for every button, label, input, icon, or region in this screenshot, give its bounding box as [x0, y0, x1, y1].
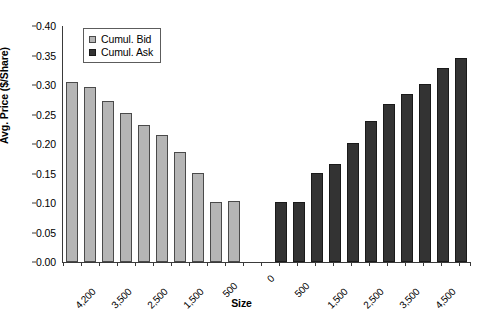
bar-cumul-ask [293, 202, 306, 262]
bar-cumul-ask [455, 58, 468, 262]
y-tick-label: 0.00 [36, 256, 63, 268]
x-tick-mark [225, 262, 226, 266]
bar-cumul-ask [383, 104, 396, 262]
x-tick-mark [470, 262, 471, 266]
x-tick-mark [423, 262, 424, 266]
bar-cumul-ask [329, 164, 342, 262]
y-tick-label: 0.30 [36, 79, 63, 91]
x-tick-mark [369, 262, 370, 266]
y-tick-mark [32, 262, 36, 263]
bar-cumul-bid [102, 101, 115, 262]
bar-cumul-bid [66, 82, 79, 262]
x-tick-mark [441, 262, 442, 266]
x-tick-mark [153, 262, 154, 266]
bar-cumul-bid [174, 152, 187, 262]
x-tick-label: 0 [264, 273, 276, 285]
bar-cumul-ask [401, 94, 414, 262]
x-tick-mark [189, 262, 190, 266]
x-tick-mark [315, 262, 316, 266]
y-tick-mark [32, 85, 36, 86]
bar-cumul-bid [138, 125, 151, 262]
x-tick-mark [351, 262, 352, 266]
x-tick-mark [261, 262, 262, 266]
x-tick-mark [63, 262, 64, 266]
legend-label-ask: Cumul. Ask [101, 47, 153, 58]
legend-swatch-icon-bid [89, 36, 96, 43]
y-axis-title: Avg. Price ($/Share) [0, 47, 10, 144]
x-tick-mark [405, 262, 406, 266]
y-tick-label: 0.35 [36, 50, 63, 62]
bar-cumul-ask [275, 202, 288, 262]
bar-chart: Avg. Price ($/Share) Size 0.000.050.100.… [0, 0, 483, 323]
legend-item-cumul-bid: Cumul. Bid [89, 33, 153, 45]
bar-cumul-ask [347, 143, 360, 262]
x-tick-mark [243, 262, 244, 266]
x-tick-mark [387, 262, 388, 266]
legend-item-cumul-ask: Cumul. Ask [89, 46, 153, 58]
bar-cumul-bid [120, 113, 133, 262]
bar-cumul-bid [156, 135, 169, 262]
x-tick-mark [117, 262, 118, 266]
legend-label-bid: Cumul. Bid [101, 34, 151, 45]
bar-cumul-bid [228, 201, 241, 262]
y-tick-label: 0.40 [36, 20, 63, 32]
bar-cumul-bid [192, 173, 205, 262]
x-tick-mark [459, 262, 460, 266]
bar-cumul-ask [311, 173, 324, 262]
x-tick-mark [279, 262, 280, 266]
x-axis-line [62, 262, 471, 263]
y-tick-label: 0.10 [36, 197, 63, 209]
bar-cumul-ask [365, 121, 378, 262]
y-tick-mark [32, 55, 36, 56]
bar-cumul-ask [419, 84, 432, 262]
y-tick-label: 0.15 [36, 168, 63, 180]
y-tick-label: 0.20 [36, 138, 63, 150]
x-tick-mark [171, 262, 172, 266]
x-tick-mark [297, 262, 298, 266]
y-tick-label: 0.05 [36, 227, 63, 239]
chart-legend: Cumul. Bid Cumul. Ask [83, 28, 161, 63]
x-tick-mark [81, 262, 82, 266]
x-tick-mark [135, 262, 136, 266]
y-tick-mark [32, 114, 36, 115]
bar-cumul-bid [84, 87, 97, 262]
y-tick-mark [32, 144, 36, 145]
x-tick-mark [207, 262, 208, 266]
x-tick-mark [99, 262, 100, 266]
y-tick-mark [32, 203, 36, 204]
y-tick-mark [32, 173, 36, 174]
y-tick-label: 0.25 [36, 109, 63, 121]
bar-cumul-bid [210, 202, 223, 262]
y-tick-mark [32, 26, 36, 27]
x-tick-mark [333, 262, 334, 266]
bar-cumul-ask [437, 68, 450, 262]
y-tick-mark [32, 232, 36, 233]
legend-swatch-icon-ask [89, 49, 96, 56]
